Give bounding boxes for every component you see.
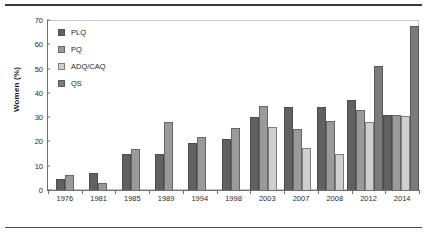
bar-plq-1994[interactable] <box>188 143 197 190</box>
bar-group <box>114 20 147 190</box>
bar-pq-1981[interactable] <box>98 183 107 190</box>
legend-item-qs[interactable]: QS <box>58 79 106 88</box>
bar-group <box>347 20 383 190</box>
bar-group <box>247 20 280 190</box>
bar-pq-2003[interactable] <box>259 106 268 190</box>
bar-adq-caq-2008[interactable] <box>335 154 344 190</box>
y-tick-label: 10 <box>35 161 47 170</box>
bar-pq-1985[interactable] <box>131 149 140 190</box>
x-tick-label-2003: 2003 <box>250 194 284 203</box>
y-axis-title: Women (%) <box>12 35 21 145</box>
bar-pq-2014[interactable] <box>392 115 401 190</box>
bar-adq-caq-2003[interactable] <box>268 127 277 190</box>
bar-plq-2012[interactable] <box>347 100 356 190</box>
x-tick-label-1989: 1989 <box>149 194 183 203</box>
legend-swatch-icon <box>58 29 65 36</box>
y-tick-label: 0 <box>39 186 47 195</box>
bar-pq-2007[interactable] <box>293 129 302 190</box>
chart-legend: PLQPQADQ/CAQQS <box>58 28 106 88</box>
x-tick-label-1981: 1981 <box>82 194 116 203</box>
legend-item-pq[interactable]: PQ <box>58 45 106 54</box>
y-tick-label: 30 <box>35 113 47 122</box>
x-tick-label-1985: 1985 <box>115 194 149 203</box>
bar-group <box>383 20 419 190</box>
y-tick-label: 40 <box>35 88 47 97</box>
x-tick-label-2008: 2008 <box>318 194 352 203</box>
bar-plq-2014[interactable] <box>383 115 392 190</box>
bar-group <box>148 20 181 190</box>
legend-label: ADQ/CAQ <box>71 62 106 71</box>
legend-label: PLQ <box>71 28 86 37</box>
bar-adq-caq-2012[interactable] <box>365 122 374 190</box>
bar-adq-caq-2007[interactable] <box>302 148 311 191</box>
x-axis-labels: 1976198119851989199419982003200720082012… <box>48 194 419 203</box>
x-tickmark <box>419 190 420 194</box>
bar-pq-1976[interactable] <box>65 175 74 190</box>
legend-item-plq[interactable]: PLQ <box>58 28 106 37</box>
top-rule <box>5 4 422 6</box>
bar-plq-1985[interactable] <box>122 154 131 190</box>
legend-item-adq-caq[interactable]: ADQ/CAQ <box>58 62 106 71</box>
y-tick-label: 60 <box>35 40 47 49</box>
bar-plq-1989[interactable] <box>155 154 164 190</box>
bar-qs-2012[interactable] <box>374 66 383 190</box>
bar-plq-2008[interactable] <box>317 107 326 190</box>
legend-label: PQ <box>71 45 82 54</box>
legend-label: QS <box>71 79 82 88</box>
bar-qs-2014[interactable] <box>410 26 419 190</box>
y-tick-label: 20 <box>35 137 47 146</box>
bar-pq-2008[interactable] <box>326 121 335 190</box>
bar-plq-2007[interactable] <box>284 107 293 190</box>
x-tick-label-1994: 1994 <box>183 194 217 203</box>
bar-group <box>214 20 247 190</box>
legend-swatch-icon <box>58 46 65 53</box>
y-tick-label: 50 <box>35 64 47 73</box>
bar-group <box>314 20 347 190</box>
x-tick-label-2007: 2007 <box>284 194 318 203</box>
y-tick-label: 70 <box>35 16 47 25</box>
x-tick-label-1998: 1998 <box>217 194 251 203</box>
legend-swatch-icon <box>58 63 65 70</box>
x-axis-line <box>47 190 419 191</box>
bar-pq-1989[interactable] <box>164 122 173 190</box>
bar-group <box>181 20 214 190</box>
legend-swatch-icon <box>58 80 65 87</box>
bar-pq-1994[interactable] <box>197 137 206 190</box>
bar-plq-1998[interactable] <box>222 139 231 190</box>
x-tick-label-2014: 2014 <box>385 194 419 203</box>
bar-plq-1976[interactable] <box>56 179 65 190</box>
x-tick-label-1976: 1976 <box>48 194 82 203</box>
bar-pq-2012[interactable] <box>356 110 365 190</box>
x-tick-label-2012: 2012 <box>352 194 386 203</box>
chart-figure: Women (%) 010203040506070 19761981198519… <box>0 0 427 233</box>
bar-group <box>281 20 314 190</box>
bar-plq-1981[interactable] <box>89 173 98 190</box>
bar-adq-caq-2014[interactable] <box>401 116 410 190</box>
bottom-rule <box>5 227 422 228</box>
bar-pq-1998[interactable] <box>231 128 240 190</box>
bar-plq-2003[interactable] <box>250 117 259 190</box>
